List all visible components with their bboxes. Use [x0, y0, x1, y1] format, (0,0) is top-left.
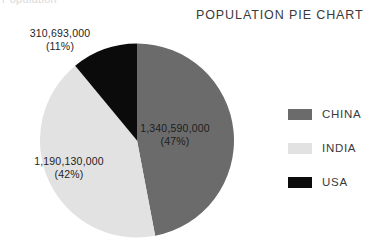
- legend-swatch-usa-icon: [288, 177, 312, 188]
- legend-label-india: INDIA: [322, 142, 356, 154]
- legend-item-india[interactable]: INDIA: [288, 140, 376, 156]
- slice-label-usa-percent: (11%): [8, 40, 112, 53]
- page-title: POPULATION PIE CHART: [196, 8, 364, 22]
- clipped-header-artifact: Population: [2, 0, 57, 5]
- slice-label-usa-value: 310,693,000: [30, 27, 91, 39]
- slice-label-china: 1,340,590,000 (47%): [127, 122, 223, 148]
- legend-label-usa: USA: [322, 176, 348, 188]
- legend-item-usa[interactable]: USA: [288, 174, 376, 190]
- slice-label-usa: 310,693,000 (11%): [8, 27, 112, 53]
- legend-swatch-china-icon: [288, 109, 312, 120]
- legend-item-china[interactable]: CHINA: [288, 106, 376, 122]
- slice-label-china-percent: (47%): [127, 135, 223, 148]
- slice-label-china-value: 1,340,590,000: [140, 122, 210, 134]
- slice-label-india: 1,190,130,000 (42%): [14, 155, 124, 181]
- slice-label-india-value: 1,190,130,000: [34, 155, 104, 167]
- chart-legend: CHINA INDIA USA: [288, 106, 376, 208]
- pie-chart-screen: Population POPULATION PIE CHART 310,693,…: [0, 0, 376, 252]
- legend-label-china: CHINA: [322, 108, 361, 120]
- slice-label-india-percent: (42%): [14, 168, 124, 181]
- legend-swatch-india-icon: [288, 143, 312, 154]
